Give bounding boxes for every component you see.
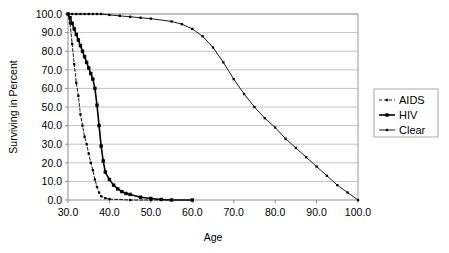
data-point (71, 13, 73, 15)
data-point (326, 175, 328, 177)
data-point (120, 190, 123, 193)
data-point (79, 113, 81, 115)
data-point (97, 124, 100, 127)
data-point (99, 144, 102, 147)
data-point (77, 38, 80, 41)
legend-label: Clear (399, 124, 426, 136)
data-point (305, 156, 307, 158)
data-point (104, 170, 107, 173)
data-point (112, 183, 115, 186)
y-tick-label: 100.0 (36, 8, 62, 20)
data-point (336, 184, 338, 186)
x-tick-label: 60.0 (182, 206, 203, 218)
x-tick-label: 90.0 (306, 206, 327, 218)
y-tick-label: 30.0 (42, 138, 63, 150)
x-tick-label: 30.0 (58, 206, 79, 218)
data-point (116, 187, 119, 190)
data-point (243, 93, 245, 95)
legend-label: HIV (399, 109, 418, 121)
data-point (83, 136, 85, 138)
data-point (68, 16, 71, 19)
data-point (79, 13, 81, 15)
data-point (81, 50, 84, 53)
data-point (93, 87, 96, 90)
data-point (100, 13, 102, 15)
data-point (92, 169, 94, 171)
data-point (139, 196, 142, 199)
data-point (85, 143, 87, 145)
data-point (201, 35, 203, 37)
data-point (124, 192, 127, 195)
data-point (73, 63, 75, 65)
data-point (96, 13, 98, 15)
x-tick-label: 70.0 (223, 206, 244, 218)
y-tick-label: 10.0 (42, 175, 63, 187)
data-point (274, 126, 276, 128)
y-tick-label: 60.0 (42, 82, 63, 94)
legend-swatch-marker (385, 113, 388, 116)
data-point (315, 165, 317, 167)
y-tick-label: 0.0 (47, 194, 62, 206)
data-point (191, 198, 194, 201)
legend-swatch-marker (386, 129, 388, 131)
data-point (88, 13, 90, 15)
data-point (108, 198, 110, 200)
y-tick-label: 40.0 (42, 119, 63, 131)
data-point (75, 33, 78, 36)
data-point (160, 198, 163, 201)
x-axis-title: Age (204, 231, 223, 243)
data-point (75, 82, 77, 84)
data-point (129, 199, 131, 201)
data-point (102, 159, 105, 162)
legend-swatch-marker (386, 99, 388, 101)
x-tick-label: 80.0 (265, 206, 286, 218)
gridlines-layer (68, 14, 358, 181)
x-tick-label: 50.0 (141, 206, 162, 218)
data-point (77, 95, 79, 97)
data-point (96, 186, 98, 188)
axes-layer (65, 14, 358, 203)
data-point (79, 44, 82, 47)
data-point (181, 23, 183, 25)
data-point (71, 43, 73, 45)
data-point (346, 191, 348, 193)
data-point (91, 77, 94, 80)
data-point (212, 46, 214, 48)
data-point (119, 15, 121, 17)
data-point (264, 117, 266, 119)
y-tick-label: 50.0 (42, 101, 63, 113)
data-point (95, 103, 98, 106)
legend-label: AIDS (399, 94, 425, 106)
data-point (104, 197, 106, 199)
data-point (67, 13, 69, 15)
data-point (284, 137, 286, 139)
data-point (90, 162, 92, 164)
data-point (129, 16, 131, 18)
data-point (170, 198, 173, 201)
data-point (253, 106, 255, 108)
y-tick-label: 90.0 (42, 26, 63, 38)
y-tick-label: 20.0 (42, 157, 63, 169)
data-point (87, 66, 90, 69)
data-point (357, 199, 359, 201)
data-point (73, 27, 76, 30)
data-point (108, 178, 111, 181)
data-point (89, 72, 92, 75)
data-point (233, 78, 235, 80)
data-point (191, 28, 193, 30)
data-point (139, 17, 141, 19)
xtick-labels: 30.040.050.060.070.080.090.0100.0 (58, 206, 372, 218)
data-point (100, 195, 102, 197)
data-point (83, 13, 85, 15)
x-tick-label: 40.0 (99, 206, 120, 218)
data-point (150, 18, 152, 20)
data-point (85, 61, 88, 64)
legend: AIDSHIVClear (374, 89, 438, 137)
data-point (128, 193, 131, 196)
data-point (70, 22, 73, 25)
y-tick-label: 70.0 (42, 64, 63, 76)
data-point (149, 197, 152, 200)
data-point (222, 61, 224, 63)
y-tick-label: 80.0 (42, 45, 63, 57)
data-point (98, 191, 100, 193)
